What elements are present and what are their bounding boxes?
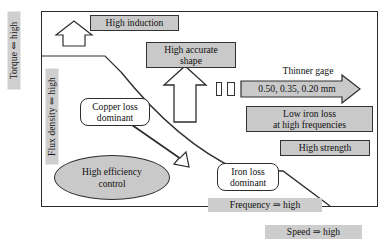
gage-tick-thin <box>216 82 222 96</box>
box-high-accurate-shape: High accurate shape <box>146 42 236 68</box>
region-label-high-efficiency-control: High efficiency control <box>54 155 170 200</box>
axis-label-flux-density: Flux density ⇐ high <box>46 69 59 165</box>
region-label-iron-loss-dominant: Iron loss dominant <box>217 163 279 191</box>
box-low-iron-loss: Low iron loss at high frequencies <box>246 106 373 132</box>
label-gage-values: 0.50, 0.35, 0.20 mm <box>241 82 353 96</box>
axis-label-speed: Speed ⇒ high <box>265 225 362 239</box>
axis-label-frequency: Frequency ⇒ high <box>208 198 322 212</box>
box-high-strength: High strength <box>280 140 370 156</box>
label-thinner-gage: Thinner gage <box>268 65 348 78</box>
gage-tick-thick <box>227 82 235 96</box>
box-high-induction: High induction <box>90 15 179 31</box>
axis-label-torque: Torque ⇐ high <box>8 12 21 90</box>
diagram-canvas: Torque ⇐ high Flux density ⇐ high Thinne… <box>0 0 392 248</box>
region-label-copper-loss-dominant: Copper loss dominant <box>80 98 150 126</box>
